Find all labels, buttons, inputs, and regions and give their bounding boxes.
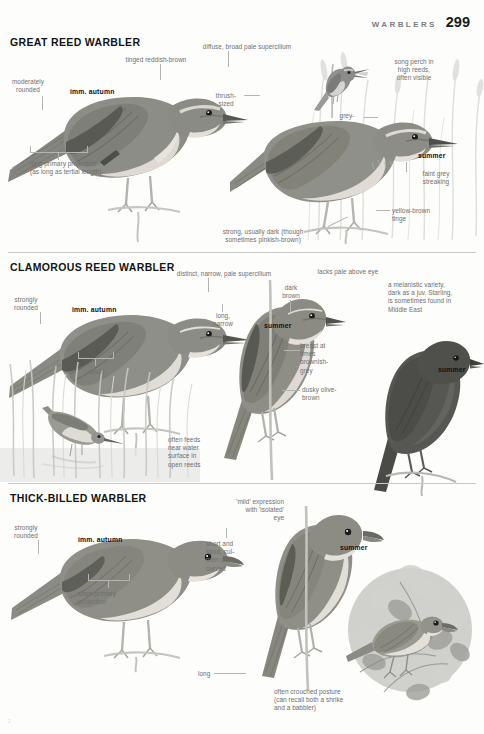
annotation-dusky-olive-brown: dusky olive- brown (302, 386, 350, 402)
annotation-long-primary-projection: long primary projection (as long as tert… (30, 160, 150, 176)
leader-mild-expression (226, 528, 227, 538)
annotation-yellow-brown-tinge: yellow-brown tinge (392, 207, 462, 223)
annotation-distinct-supercilium: distinct, narrow, pale supercilium (160, 270, 288, 278)
bracket-short (78, 352, 114, 359)
section-divider-1 (8, 252, 476, 253)
annotation-imm-autumn-2: imm. autumn (72, 306, 117, 314)
annotation-long: long (198, 670, 210, 678)
leader-diffuse-supercilium (228, 51, 229, 67)
annotation-strong-dark-bill: strong, usually dark (though sometimes p… (198, 228, 328, 244)
annotation-summer-4: summer (340, 544, 368, 552)
running-head: WARBLERS 299 (372, 14, 470, 30)
annotation-short-primary-projection: short primary projection (78, 590, 156, 606)
annotation-breast-brownish-grey: breast at times brownish- grey (300, 342, 344, 375)
page-number: 299 (446, 14, 470, 30)
leader-thrush-sized (244, 95, 260, 96)
leader-dusky-olive-brown (282, 390, 300, 391)
annotation-melanistic-variety: a melanistic variety, dark as a juv. Sta… (388, 281, 482, 314)
annotation-dark-brown: dark brown (276, 284, 306, 300)
annotation-faint-grey-streaking: faint grey streaking (408, 170, 464, 186)
annotation-strongly-rounded-3: strongly rounded (4, 524, 48, 540)
leader-yellow-brown-tinge (376, 210, 390, 211)
field-guide-page: WARBLERS 299 GREAT REED WARBLER (0, 0, 484, 734)
leader-strongly-rounded-3 (38, 540, 39, 554)
leader-primary-projection (58, 152, 59, 160)
leader-strongly-rounded-2 (40, 312, 41, 324)
leader-short-primary-projection (108, 580, 109, 588)
leader-tinged-reddish-brown (160, 64, 161, 80)
annotation-song-perch: song perch in high reeds, often visible (378, 58, 450, 83)
bird-clamorous-melanistic (350, 326, 484, 496)
leader-long (214, 673, 246, 674)
annotation-summer-1: summer (418, 152, 446, 160)
annotation-diffuse-supercilium: diffuse, broad pale supercilium (185, 43, 309, 51)
annotation-often-feeds-near-water: often feeds near water surface in open r… (168, 436, 226, 469)
leader-breast-brownish-grey (284, 350, 300, 351)
section-divider-2 (8, 483, 476, 484)
leader-short (95, 358, 96, 366)
running-head-label: WARBLERS (372, 20, 437, 29)
annotation-moderately-rounded: moderately rounded (4, 78, 52, 94)
page-corner-mark: 2 (8, 718, 11, 724)
bracket-primary-projection (30, 146, 88, 153)
leader-dark-brown (290, 300, 291, 312)
section-title-clamorous-reed-warbler: CLAMOROUS REED WARBLER (10, 261, 175, 273)
annotation-tinged-reddish-brown: tinged reddish-brown (108, 56, 204, 64)
bracket-short-primary-projection (88, 574, 130, 581)
annotation-imm-autumn-3: imm. autumn (78, 536, 123, 544)
annotation-summer-2: summer (264, 322, 292, 330)
leader-moderately-rounded (42, 96, 43, 110)
section-title-great-reed-warbler: GREAT REED WARBLER (10, 36, 140, 48)
section-title-thick-billed-warbler: THICK-BILLED WARBLER (10, 492, 147, 504)
leader-faint-grey-streaking (406, 162, 407, 172)
annotation-summer-3: summer (438, 366, 466, 374)
annotation-short: short (82, 368, 112, 376)
annotation-strongly-rounded-2: strongly rounded (4, 296, 48, 312)
annotation-lacks-pale-above-eye: lacks pale above eye (308, 268, 388, 276)
annotation-imm-autumn-1: imm. autumn (70, 88, 115, 96)
bush-vignette-thick-billed (340, 552, 484, 712)
